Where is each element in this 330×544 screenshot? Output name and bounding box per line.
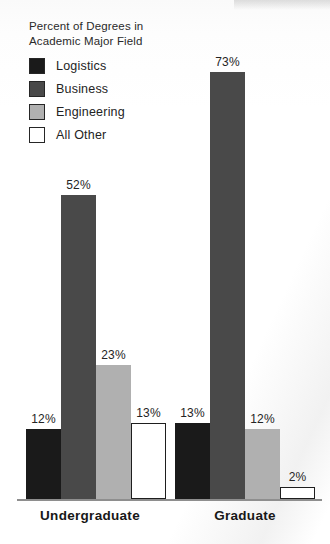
group-label-undergraduate: Undergraduate [10, 508, 170, 523]
bar-value-undergraduate-engineering: 23% [87, 348, 140, 362]
bar-undergraduate-logistics [26, 429, 61, 499]
bar-graduate-business [210, 72, 245, 499]
bar-undergraduate-all-other [131, 423, 166, 499]
bar-value-graduate-all-other: 2% [271, 470, 324, 484]
bar-value-undergraduate-business: 52% [52, 178, 105, 192]
group-label-graduate: Graduate [175, 508, 315, 523]
bar-graduate-all-other [280, 487, 315, 499]
x-axis-baseline [17, 499, 322, 501]
bar-graduate-engineering [245, 429, 280, 499]
bar-value-graduate-business: 73% [201, 55, 254, 69]
plot-area: 12% 52% 23% 13% 13% 73% 12% 2% Undergrad… [0, 0, 330, 544]
bar-undergraduate-engineering [96, 365, 131, 499]
chart-page: Percent of Degrees in Academic Major Fie… [0, 0, 330, 544]
bar-value-graduate-engineering: 12% [236, 412, 289, 426]
bar-graduate-logistics [175, 423, 210, 499]
